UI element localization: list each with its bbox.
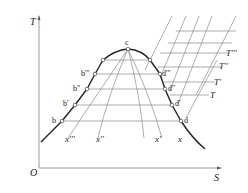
label-x2: x'' xyxy=(95,134,105,144)
quality-labels: x''' x'' x' x xyxy=(64,134,182,144)
critical-point-marker xyxy=(126,47,130,51)
x-axis-arrow-icon xyxy=(217,167,222,170)
label-x3: x''' xyxy=(64,134,76,144)
label-d: d xyxy=(184,116,188,125)
label-d3: d''' xyxy=(162,69,171,78)
label-b: b xyxy=(52,116,56,125)
label-c: c xyxy=(125,38,129,47)
label-x0: x xyxy=(177,134,182,144)
isotherm-labels: T''' T'' T' T xyxy=(210,48,238,100)
y-axis-label: T xyxy=(30,16,37,27)
label-b2: b'' xyxy=(73,84,80,93)
label-b1: b' xyxy=(63,99,69,108)
ts-diagram: T S O T''' T'' T' T xyxy=(0,0,248,193)
quality-lines xyxy=(68,49,162,138)
label-b3: b''' xyxy=(81,69,90,78)
label-d2: d'' xyxy=(168,84,175,93)
isotherm-label-T1: T' xyxy=(214,77,222,87)
y-axis-arrow-icon xyxy=(38,15,41,20)
isotherm-label-T3: T''' xyxy=(226,48,238,58)
origin-label: O xyxy=(30,167,37,178)
label-d1: d' xyxy=(175,99,181,108)
label-x1: x' xyxy=(154,134,162,144)
x-axis-label: S xyxy=(214,172,219,183)
isotherm-label-T2: T'' xyxy=(219,61,229,71)
isotherm-label-T0: T xyxy=(210,90,216,100)
